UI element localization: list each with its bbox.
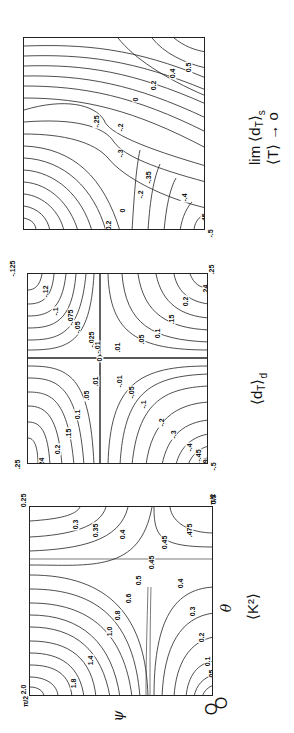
contour-label: 0.4: [177, 578, 184, 590]
caption-sub: T: [256, 385, 267, 391]
contour-label: -.3: [170, 429, 177, 439]
contour-label: 0.2: [54, 444, 61, 456]
contour-label: 1.4: [87, 655, 94, 667]
contour-label: .02: [212, 680, 213, 692]
axis-label-psi: ψ: [110, 711, 126, 722]
contour-label: 0.3: [72, 519, 79, 531]
contour-label: .01: [92, 376, 99, 388]
contour-label: -.1: [52, 306, 59, 316]
caption-dtd: ⟨dT⟩d: [248, 373, 269, 405]
contour-label: -.4: [186, 442, 193, 452]
contour-label: 0.6: [125, 593, 132, 605]
corner-value-label: -.5: [210, 462, 217, 470]
caption-sup: d: [258, 373, 269, 379]
contour-label: 0.2: [150, 80, 157, 92]
corner-value-label: 2.0: [20, 685, 27, 695]
caption-limit: ⟨T⟩ → o: [264, 112, 281, 165]
contour-label: .05: [83, 390, 90, 402]
contour-label: 0: [119, 208, 126, 214]
contour-label: 0.5: [185, 62, 192, 74]
contour-label: -.01: [116, 374, 123, 388]
contour-plot-k2: 0.30.350.40.45.4750.450.50.60.81.01.41.8…: [29, 506, 213, 696]
contour-label: -.05: [74, 320, 81, 334]
axis-label-theta: θ: [218, 604, 234, 612]
contour-label: -.4: [181, 192, 188, 202]
contour-label: 0.3: [189, 606, 196, 618]
contour-label: .24: [202, 284, 208, 296]
contour-label: .475: [186, 523, 193, 539]
contour-label: -.12: [42, 284, 49, 298]
contour-label: 0.45: [161, 535, 168, 551]
contour-label: -.2: [137, 189, 144, 199]
contour-label: -.01: [94, 340, 101, 354]
contour-label: 0.1: [154, 328, 161, 340]
contour-label: -.49: [202, 458, 208, 464]
contour-label: -.25: [93, 114, 100, 128]
contour-label: 0.45: [148, 555, 155, 571]
contour-label: -.2: [158, 417, 165, 427]
caption-limit-condition: ⟨T⟩ → o: [264, 112, 282, 165]
tick-pi-over-2-x: π/2: [209, 494, 216, 505]
corner-value-label: .25: [14, 460, 21, 470]
contour-label: .05: [208, 669, 213, 681]
tick-pi-over-2-y: π/2: [22, 696, 29, 707]
corner-value-label: -.125: [9, 261, 16, 277]
contour-label: 0.4: [169, 68, 176, 80]
caption-main: ⟨d: [248, 391, 265, 405]
contour-label: 0.35: [92, 523, 99, 539]
contour-label: .15: [168, 314, 175, 326]
contour-lines: [24, 38, 205, 230]
contour-label: -.45: [201, 212, 205, 226]
corner-value-label: -.5: [207, 229, 214, 237]
contour-label: .15: [65, 428, 72, 440]
contour-label: 0.4: [119, 529, 126, 541]
contour-label: 0.5: [135, 575, 142, 587]
contour-label: 1.0: [106, 626, 113, 638]
contour-label: -.45: [195, 448, 202, 462]
contour-label: .05: [138, 334, 145, 346]
contour-label: .24: [38, 457, 45, 464]
contour-label: 0: [96, 357, 103, 363]
caption-main: ⟨K²⟩: [244, 593, 261, 620]
contour-label: 0: [132, 97, 139, 103]
caption-k2: ⟨K²⟩: [244, 593, 262, 620]
origin-label-2: O: [213, 697, 231, 709]
contour-label: 0.1: [204, 656, 211, 668]
contour-plot-lim-dts: 0.60.50.40.20-.25-.2-.3-.35-.200.20.40.5…: [23, 37, 205, 230]
contour-label: -.3: [117, 148, 124, 158]
contour-label: 1.8: [70, 678, 77, 690]
contour-label: 0.2: [182, 296, 189, 308]
contour-label: -.05: [128, 385, 135, 399]
contour-label: 0.8: [114, 610, 121, 622]
corner-value-label: 0.25: [20, 494, 27, 508]
caption-main: lim ⟨d: [246, 127, 263, 165]
contour-lines: [28, 274, 208, 464]
contour-label: -.35: [145, 170, 152, 184]
contour-label: -.1: [140, 399, 147, 409]
contour-label: 0.1: [74, 409, 81, 421]
contour-label: 0.2: [105, 220, 112, 230]
contour-label: .01: [114, 342, 121, 354]
contour-label: 0.2: [198, 632, 205, 644]
contour-label: -.2: [117, 122, 124, 132]
contour-plot-dtd: -.12-.1-.075-.05-.025-.01.01.050.1.150.2…: [27, 273, 208, 464]
corner-value-label: .25: [208, 265, 215, 275]
